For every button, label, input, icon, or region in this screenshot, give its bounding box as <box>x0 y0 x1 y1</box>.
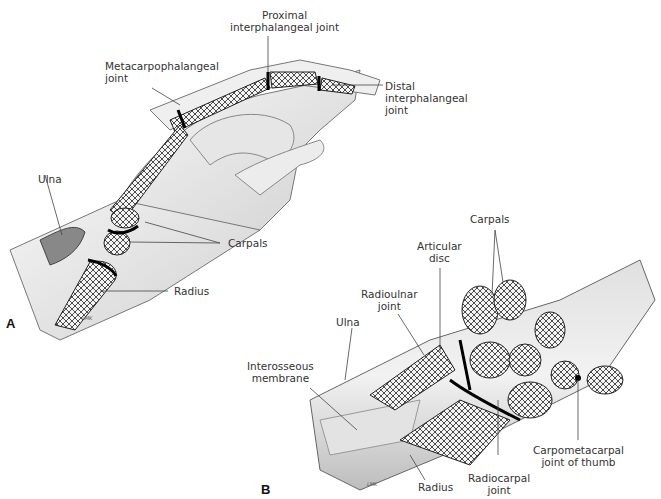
label-carpals-a: Carpals <box>228 237 268 249</box>
label-radiocarpal-joint: Radiocarpal joint <box>468 472 530 496</box>
label-line: disc <box>417 252 462 264</box>
label-line: membrane <box>247 372 314 384</box>
label-line: Articular <box>417 240 462 252</box>
label-line: Distal <box>385 80 468 92</box>
label-carpals-b: Carpals <box>470 213 510 225</box>
label-line: Radiocarpal <box>468 472 530 484</box>
label-line: Radioulnar <box>361 288 417 300</box>
panel-label-b: B <box>261 482 270 497</box>
label-line: joint of thumb <box>533 456 624 468</box>
label-line: Metacarpophalangeal <box>105 60 219 72</box>
label-line: Carpometacarpal <box>533 444 624 456</box>
label-line: Interosseous <box>247 360 314 372</box>
label-line: joint <box>468 484 530 496</box>
label-line: joint <box>385 104 468 116</box>
label-proximal-interphalangeal-joint: Proximal interphalangeal joint <box>230 9 339 33</box>
label-radioulnar-joint: Radioulnar joint <box>361 288 417 312</box>
label-articular-disc: Articular disc <box>417 240 462 264</box>
panel-label-a: A <box>6 316 15 331</box>
label-ulna-a: Ulna <box>38 173 62 185</box>
label-distal-interphalangeal-joint: Distal interphalangeal joint <box>385 80 468 116</box>
label-metacarpophalangeal-joint: Metacarpophalangeal joint <box>105 60 219 84</box>
label-radius-a: Radius <box>174 285 209 297</box>
label-line: joint <box>361 300 417 312</box>
label-ulna-b: Ulna <box>336 316 360 328</box>
anatomy-figure: Proximal interphalangeal joint Metacarpo… <box>0 0 661 499</box>
label-radius-b: Radius <box>418 481 453 493</box>
label-interosseous-membrane: Interosseous membrane <box>247 360 314 384</box>
label-line: interphalangeal <box>385 92 468 104</box>
label-line: Proximal <box>230 9 339 21</box>
panel-a-drawing <box>10 60 380 340</box>
artist-signature-a: LMK <box>82 315 92 321</box>
label-line: interphalangeal joint <box>230 21 339 33</box>
illustration <box>0 0 661 499</box>
label-carpometacarpal-joint-of-thumb: Carpometacarpal joint of thumb <box>533 444 624 468</box>
artist-signature-b: LMK <box>367 481 377 487</box>
label-line: joint <box>105 72 219 84</box>
